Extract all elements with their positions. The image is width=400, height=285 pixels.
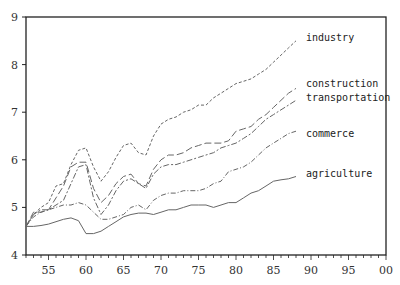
y-tick-label: 8 bbox=[11, 59, 18, 72]
x-tick-label: 75 bbox=[192, 264, 206, 277]
series-labels: industryconstructiontransportationcommer… bbox=[306, 32, 390, 179]
line-chart: 456789 55606570758085909500 industrycons… bbox=[0, 0, 400, 285]
x-tick-label: 00 bbox=[379, 264, 393, 277]
y-tick-label: 4 bbox=[11, 249, 18, 262]
y-tick-label: 6 bbox=[11, 154, 18, 167]
y-tick-label: 7 bbox=[11, 106, 18, 119]
x-tick-label: 60 bbox=[79, 264, 93, 277]
y-tick-label: 5 bbox=[11, 201, 18, 214]
x-tick-label: 95 bbox=[342, 264, 356, 277]
series-line-construction bbox=[26, 88, 296, 226]
series-lines bbox=[26, 41, 296, 234]
x-tick-label: 70 bbox=[154, 264, 168, 277]
series-line-industry bbox=[26, 41, 296, 227]
x-tick-label: 55 bbox=[42, 264, 56, 277]
y-tick-label: 9 bbox=[11, 11, 18, 24]
x-tick-label: 90 bbox=[304, 264, 318, 277]
series-label-construction: construction bbox=[306, 78, 378, 89]
x-tick-label: 85 bbox=[267, 264, 281, 277]
y-axis: 456789 bbox=[11, 11, 26, 262]
series-label-commerce: commerce bbox=[306, 128, 354, 139]
x-tick-label: 65 bbox=[117, 264, 131, 277]
x-tick-label: 80 bbox=[229, 264, 243, 277]
x-axis: 55606570758085909500 bbox=[26, 255, 393, 277]
series-label-agriculture: agriculture bbox=[306, 168, 372, 179]
series-label-transportation: transportation bbox=[306, 92, 390, 103]
series-line-transportation bbox=[26, 100, 296, 226]
series-label-industry: industry bbox=[306, 32, 354, 43]
